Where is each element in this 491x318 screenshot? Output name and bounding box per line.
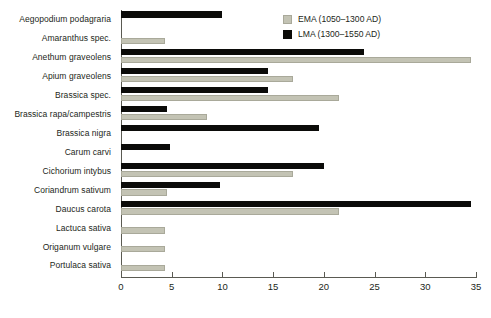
bar-row	[121, 142, 476, 161]
bar-ema	[121, 265, 165, 271]
bar-row	[121, 124, 476, 143]
y-axis-label: Lactuca sativa	[0, 218, 116, 237]
bar-lma	[121, 106, 167, 112]
x-axis-tick-label: 20	[319, 281, 330, 292]
bar-ema	[121, 95, 339, 101]
y-axis-label: Coriandrum sativum	[0, 180, 116, 199]
legend-label: EMA (1050–1300 AD)	[298, 14, 381, 24]
bar-row	[121, 218, 476, 237]
x-axis-tick-label: 15	[268, 281, 279, 292]
bar-row	[121, 105, 476, 124]
x-axis-tick-label: 0	[118, 281, 123, 292]
bar-row	[121, 199, 476, 218]
y-axis-label: Amaranthus spec.	[0, 29, 116, 48]
y-axis-label: Carum carvi	[0, 142, 116, 161]
bar-ema	[121, 76, 293, 82]
y-axis-label: Daucus carota	[0, 199, 116, 218]
tick-mark	[324, 272, 325, 277]
x-axis-tick-label: 25	[369, 281, 380, 292]
bar-row	[121, 67, 476, 86]
bar-lma	[121, 68, 268, 74]
plot-area	[121, 10, 476, 275]
tick-mark	[172, 272, 173, 277]
legend-label: LMA (1300–1550 AD)	[298, 29, 380, 39]
tick-mark	[425, 272, 426, 277]
y-axis-label: Origanum vulgare	[0, 237, 116, 256]
bar-row	[121, 256, 476, 275]
bar-lma	[121, 163, 324, 169]
bar-lma	[121, 182, 220, 188]
bar-ema	[121, 246, 165, 252]
x-axis-tick-label: 10	[217, 281, 228, 292]
bar-row	[121, 237, 476, 256]
tick-mark	[222, 272, 223, 277]
x-axis-tick-label: 30	[420, 281, 431, 292]
bar-ema	[121, 57, 471, 63]
legend-item-lma: LMA (1300–1550 AD)	[283, 29, 381, 39]
legend-item-ema: EMA (1050–1300 AD)	[283, 14, 381, 24]
y-axis-label: Cichorium intybus	[0, 161, 116, 180]
bar-lma	[121, 125, 319, 131]
y-axis-label: Brassica nigra	[0, 124, 116, 143]
x-axis-tick-label: 35	[471, 281, 482, 292]
bar-ema	[121, 38, 165, 44]
bar-chart: Aegopodium podagrariaAmaranthus spec.Ane…	[0, 0, 491, 318]
bar-lma	[121, 87, 268, 93]
bar-row	[121, 161, 476, 180]
y-axis-category-labels: Aegopodium podagrariaAmaranthus spec.Ane…	[0, 10, 116, 275]
chart-legend: EMA (1050–1300 AD)LMA (1300–1550 AD)	[283, 14, 381, 39]
tick-mark	[121, 272, 122, 277]
bar-lma	[121, 201, 471, 207]
y-axis-label: Anethum graveolens	[0, 48, 116, 67]
bar-ema	[121, 208, 339, 214]
y-axis-label: Apium graveolens	[0, 67, 116, 86]
tick-mark	[375, 272, 376, 277]
tick-mark	[476, 272, 477, 277]
y-axis-label: Portulaca sativa	[0, 256, 116, 275]
legend-swatch-lma-icon	[283, 30, 292, 39]
bar-ema	[121, 227, 165, 233]
y-axis-label: Brassica spec.	[0, 86, 116, 105]
bar-lma	[121, 144, 170, 150]
bar-lma	[121, 49, 364, 55]
bar-ema	[121, 189, 167, 195]
x-axis-ticks: 05101520253035	[121, 277, 477, 303]
bar-ema	[121, 114, 207, 120]
bar-row	[121, 86, 476, 105]
bar-rows	[121, 10, 476, 275]
bar-ema	[121, 171, 293, 177]
bar-row	[121, 180, 476, 199]
bar-row	[121, 48, 476, 67]
x-axis-tick-label: 5	[169, 281, 174, 292]
legend-swatch-ema-icon	[283, 15, 292, 24]
bar-lma	[121, 11, 222, 17]
y-axis-label: Brassica rapa/campestris	[0, 105, 116, 124]
y-axis-label: Aegopodium podagraria	[0, 10, 116, 29]
tick-mark	[273, 272, 274, 277]
